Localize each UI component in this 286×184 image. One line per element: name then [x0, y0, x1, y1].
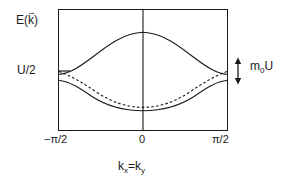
gap-label-u: U	[264, 59, 273, 73]
plot-svg	[0, 0, 286, 184]
y-tick-label-u-half: U/2	[17, 64, 36, 76]
gap-label-m: m	[250, 59, 260, 73]
y-axis-label-kvec: →k	[28, 14, 34, 26]
x-tick-label-zero: 0	[139, 134, 145, 145]
gap-arrow-icon	[235, 58, 241, 85]
band-structure-figure: E(→k) U/2 m0U −π/2 0 π/2 kx=ky	[0, 0, 286, 184]
x-axis-label-sub-y: y	[141, 166, 145, 175]
x-axis-label: kx=ky	[118, 160, 145, 175]
x-axis-label-eq: =k	[128, 159, 141, 173]
gap-annotation-label: m0U	[250, 60, 273, 75]
y-axis-label: E(→k)	[16, 14, 38, 26]
x-tick-label-pi-over-2: π/2	[212, 134, 229, 145]
vector-arrow-icon: →	[27, 8, 36, 17]
x-tick-label-neg-pi-over-2: −π/2	[44, 134, 67, 145]
